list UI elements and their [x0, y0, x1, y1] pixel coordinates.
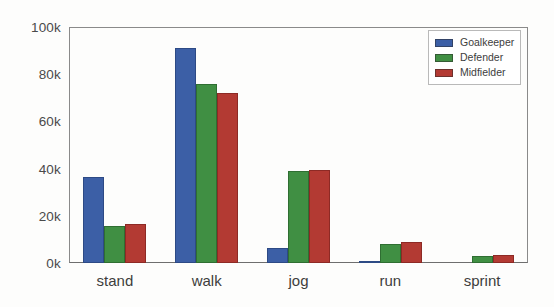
y-tick-label: 0k — [46, 256, 61, 271]
legend-label: Goalkeeper — [460, 37, 514, 48]
legend-label: Midfielder — [460, 67, 506, 78]
x-axis: standwalkjogrunsprint — [69, 266, 528, 306]
bar-jog-defender — [288, 171, 309, 263]
legend-item-goalkeeper: Goalkeeper — [435, 36, 514, 49]
y-tick-label: 20k — [39, 208, 61, 223]
bar-run-goalkeeper — [359, 261, 380, 263]
chart-legend: GoalkeeperDefenderMidfielder — [428, 30, 521, 85]
bar-chart: 0k20k40k60k80k100k standwalkjogrunsprint… — [0, 0, 554, 307]
bar-run-defender — [380, 244, 401, 263]
bar-walk-midfielder — [217, 93, 238, 263]
y-tick-label: 40k — [39, 161, 61, 176]
bar-stand-goalkeeper — [83, 177, 104, 263]
bar-walk-goalkeeper — [175, 48, 196, 263]
bar-run-midfielder — [401, 242, 422, 263]
bar-sprint-midfielder — [493, 255, 514, 263]
legend-swatch-icon — [435, 54, 453, 62]
legend-item-midfielder: Midfielder — [435, 66, 514, 79]
x-tick-label-sprint: sprint — [464, 272, 501, 289]
bar-jog-midfielder — [309, 170, 330, 263]
bar-sprint-defender — [472, 256, 493, 263]
x-tick-label-jog: jog — [288, 272, 308, 289]
bar-jog-goalkeeper — [267, 248, 288, 263]
bar-walk-defender — [196, 84, 217, 263]
x-tick-label-stand: stand — [97, 272, 134, 289]
y-tick-label: 60k — [39, 114, 61, 129]
x-tick-label-run: run — [379, 272, 401, 289]
legend-item-defender: Defender — [435, 51, 514, 64]
legend-swatch-icon — [435, 39, 453, 47]
bar-stand-defender — [104, 226, 125, 263]
legend-label: Defender — [460, 52, 503, 63]
y-axis: 0k20k40k60k80k100k — [0, 0, 69, 307]
y-tick-label: 100k — [31, 20, 61, 35]
bar-stand-midfielder — [125, 224, 146, 263]
x-tick-label-walk: walk — [192, 272, 222, 289]
legend-swatch-icon — [435, 69, 453, 77]
y-tick-label: 80k — [39, 67, 61, 82]
